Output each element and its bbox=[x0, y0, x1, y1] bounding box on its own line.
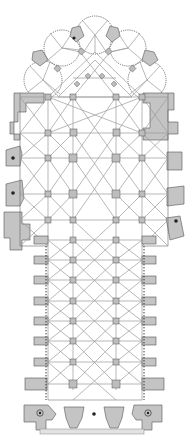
nave-vaults bbox=[48, 220, 142, 400]
west-front bbox=[24, 400, 162, 434]
transept bbox=[4, 93, 184, 250]
transept-vaults bbox=[20, 97, 168, 400]
cathedral-floor-plan bbox=[0, 0, 187, 438]
piers bbox=[45, 48, 145, 388]
nave-buttresses bbox=[25, 236, 164, 400]
choir-vaults bbox=[48, 52, 142, 133]
